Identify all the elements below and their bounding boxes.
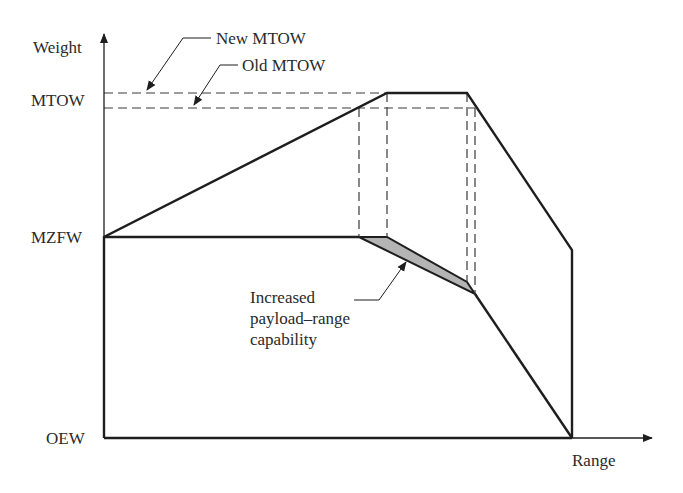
y-axis-label: Weight — [33, 38, 82, 57]
new-mtow-label: New MTOW — [216, 29, 307, 48]
increased-capability-line-2: payload–range — [250, 309, 350, 328]
tick-label-mtow: MTOW — [31, 91, 85, 110]
tick-label-mzfw: MZFW — [31, 228, 83, 247]
old-mtow-leader — [194, 65, 238, 105]
x-axis-label: Range — [572, 451, 615, 470]
payload-range-diagram: Weight Range MTOW MZFW OEW New MTOW Old … — [0, 0, 683, 493]
increased-capability-line-3: capability — [250, 330, 318, 349]
mzfw-to-zero-payload-line — [475, 294, 572, 438]
new-mtow-leader — [147, 38, 211, 90]
tick-label-oew: OEW — [46, 429, 86, 448]
increased-capability-region — [359, 237, 475, 294]
increased-capability-leader — [354, 262, 406, 300]
old-mtow-label: Old MTOW — [242, 56, 326, 75]
payload-range-envelope — [104, 93, 572, 438]
increased-capability-line-1: Increased — [250, 288, 316, 307]
